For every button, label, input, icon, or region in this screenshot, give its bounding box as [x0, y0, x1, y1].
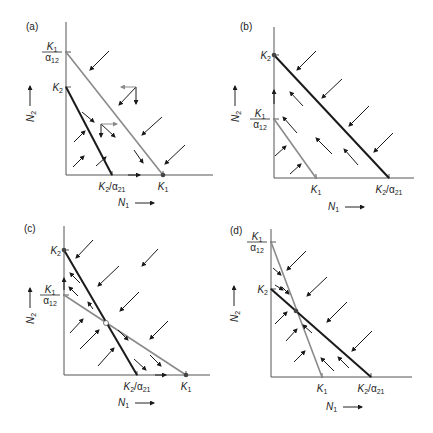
x-axis-title: N1 — [328, 201, 364, 213]
trajectory-arrow-icon — [98, 348, 114, 366]
trajectory-arrow-icon — [322, 79, 342, 98]
trajectory-arrow-icon — [283, 117, 297, 133]
n2-zero-growth-isocline — [64, 250, 137, 375]
trajectory-arrow-icon — [344, 149, 358, 165]
panel-d: (d)N1N2K1α12K2K1K2/α21 — [229, 225, 412, 413]
n2-zero-growth-isocline — [271, 289, 371, 377]
x-tick-label-k1: K1 — [317, 383, 328, 395]
x-axis-title: N1 — [326, 401, 362, 413]
trajectory-arrow-icon — [327, 302, 347, 322]
n1-label: N1 — [118, 197, 129, 209]
trajectory-arrow-icon — [316, 138, 332, 154]
trajectory-arrow-icon — [352, 331, 372, 351]
trajectory-arrow-icon — [118, 330, 128, 340]
x-tick-label-k2-over-alpha21: K2/α21 — [358, 383, 385, 395]
denominator: α12 — [43, 295, 57, 307]
x-tick-label-k1: K1 — [158, 181, 169, 193]
trajectory-arrow-icon — [69, 287, 78, 296]
stable-equilibrium-point — [184, 373, 189, 378]
trajectory-arrow-icon — [73, 156, 84, 167]
trajectory-arrow-icon — [349, 106, 369, 126]
trajectory-arrow-icon — [142, 249, 158, 266]
trajectory-arrow-icon — [120, 292, 139, 311]
y-axis-title: N2 — [230, 86, 242, 122]
trajectory-arrow-icon — [134, 359, 146, 370]
trajectory-arrow-icon — [150, 321, 168, 339]
lotka-volterra-competition-figure: (a)N1N2K1α12K2K2/α21K1(b)N1N2K2K1α12K1K2… — [0, 0, 433, 433]
trajectory-arrow-icon — [76, 240, 93, 258]
n2-label: N2 — [230, 111, 242, 122]
x-tick-label-k2-over-alpha21: K2/α21 — [376, 184, 403, 196]
trajectory-arrow-icon — [286, 329, 297, 341]
y-tick-label-k2: K2 — [52, 82, 63, 94]
panel-label: (d) — [230, 225, 242, 236]
trajectory-arrow-icon — [290, 92, 303, 106]
stable-equilibrium-point — [161, 173, 166, 178]
y-tick-label-k2: K2 — [260, 50, 271, 62]
trajectory-arrow-icon — [294, 351, 305, 362]
trajectory-arrow-icon — [297, 51, 316, 70]
stable-equilibrium-point — [62, 248, 67, 253]
trajectory-arrow-icon — [88, 302, 93, 309]
y-tick-label-k2: K2 — [50, 245, 61, 257]
x-axis-title: N1 — [118, 397, 154, 409]
trajectory-arrow-icon — [90, 51, 109, 70]
trajectory-arrow-icon — [165, 145, 185, 164]
stable-equilibrium-point — [272, 53, 277, 58]
n2-label: N2 — [25, 111, 37, 122]
trajectory-arrow-icon — [74, 131, 85, 142]
trajectory-arrow-icon — [321, 358, 334, 371]
trajectory-arrow-icon — [275, 312, 287, 324]
vector-field — [273, 251, 372, 371]
y-axis-title: N2 — [25, 86, 37, 122]
trajectory-arrow-icon — [119, 87, 136, 105]
trajectory-arrow-icon — [275, 146, 286, 156]
trajectory-arrow-icon — [142, 117, 162, 135]
trajectory-arrow-icon — [374, 133, 393, 152]
denominator: α12 — [250, 242, 264, 254]
n1-label: N1 — [118, 397, 129, 409]
trajectory-arrow-icon — [98, 266, 119, 286]
y-axis-title: N2 — [229, 286, 241, 322]
panel-c: (c)N1N2K2K1α12K2/α21K1 — [24, 223, 210, 409]
n1-label: N1 — [326, 401, 337, 413]
x-tick-label-k2-over-alpha21: K2/α21 — [99, 181, 126, 193]
n2-label: N2 — [229, 311, 241, 322]
trajectory-arrow-icon — [70, 319, 83, 333]
trajectory-arrow-icon — [287, 251, 306, 270]
n1-zero-growth-isocline — [64, 295, 186, 375]
vector-field — [73, 51, 185, 175]
trajectory-arrow-icon — [273, 268, 281, 275]
trajectory-arrow-icon — [307, 277, 327, 296]
panel-b: (b)N1N2K2K1α12K1K2/α21 — [230, 21, 414, 213]
panel-label: (c) — [24, 223, 36, 234]
vector-field — [274, 51, 393, 174]
stable-equilibrium-point — [294, 309, 299, 314]
trajectory-arrow-icon — [80, 330, 99, 349]
x-axis-title: N1 — [118, 197, 154, 209]
unstable-equilibrium-point — [104, 321, 109, 326]
vector-field — [64, 240, 168, 375]
panel-label: (a) — [26, 21, 38, 32]
n2-zero-growth-isocline — [66, 87, 112, 175]
y-tick-label-k1-over-alpha12: K1α12 — [250, 108, 270, 131]
y-tick-label-k1-over-alpha12: K1α12 — [40, 284, 60, 307]
x-tick-label-k1: K1 — [311, 184, 322, 196]
x-tick-label-k2-over-alpha21: K2/α21 — [124, 381, 151, 393]
x-tick-label-k1: K1 — [181, 381, 192, 393]
panel-a: (a)N1N2K1α12K2K2/α21K1 — [25, 21, 213, 209]
y-tick-label-k1-over-alpha12: K1α12 — [42, 41, 62, 64]
trajectory-arrow-icon — [338, 357, 349, 368]
trajectory-arrow-icon — [290, 164, 301, 174]
denominator: α12 — [253, 119, 267, 131]
y-axis-title: N2 — [25, 288, 37, 324]
trajectory-arrow-icon — [101, 124, 115, 137]
n1-label: N1 — [328, 201, 339, 213]
denominator: α12 — [45, 52, 59, 64]
n2-label: N2 — [25, 313, 37, 324]
n2-zero-growth-isocline — [274, 55, 389, 178]
y-tick-label-k1-over-alpha12: K1α12 — [247, 231, 267, 254]
panel-label: (b) — [240, 21, 252, 32]
y-tick-label-k2: K2 — [257, 284, 268, 296]
trajectory-arrow-icon — [134, 150, 143, 163]
